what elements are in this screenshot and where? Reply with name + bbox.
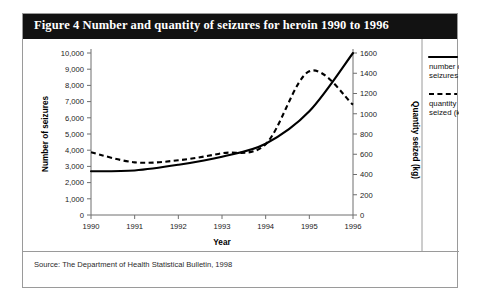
y-axis-left-title: Number of seizures	[41, 96, 50, 172]
y-axis-left-tick-label: 2,000	[65, 178, 84, 187]
y-axis-right-tick-label: 800	[360, 130, 373, 139]
series-quantity-seized	[91, 70, 353, 162]
y-axis-right-tick-label: 1400	[360, 69, 377, 78]
x-axis-tick-label: 1996	[345, 222, 362, 231]
y-axis-right-tick-label: 1000	[360, 110, 377, 119]
figure-title-bar: Figure 4 Number and quantity of seizures…	[23, 14, 457, 39]
y-axis-left-tick-label: 8,000	[65, 81, 84, 90]
y-axis-left: 01,0002,0003,0004,0005,0006,0007,0008,00…	[61, 49, 91, 220]
chart-region: 01,0002,0003,0004,0005,0006,0007,0008,00…	[23, 39, 459, 251]
y-axis-left-tick-label: 1,000	[65, 195, 84, 204]
x-axis-tick-label: 1991	[126, 222, 143, 231]
y-axis-left-tick-label: 9,000	[65, 65, 84, 74]
y-axis-right-tick-label: 200	[360, 191, 373, 200]
chart-legend: number of seizures quantity seized (kg)	[422, 39, 459, 251]
y-axis-right: 02004006008001000120014001600	[353, 49, 377, 220]
y-axis-left-tick-label: 5,000	[65, 130, 84, 139]
y-axis-right-title: Quantity seized (kg)	[411, 101, 420, 179]
legend-label-seizures-line1: number of	[429, 62, 459, 71]
figure-card: Figure 4 Number and quantity of seizures…	[22, 13, 458, 288]
y-axis-right-tick-label: 400	[360, 170, 373, 179]
line-chart: 01,0002,0003,0004,0005,0006,0007,0008,00…	[23, 39, 459, 251]
y-axis-right-tick-label: 600	[360, 150, 373, 159]
legend-label-quantity-line2: seized (kg)	[429, 108, 459, 117]
x-axis: 1990199119921993199419951996	[83, 215, 362, 231]
x-axis-tick-label: 1995	[301, 222, 318, 231]
y-axis-right-tick-label: 0	[360, 211, 364, 220]
y-axis-left-tick-label: 0	[80, 211, 84, 220]
legend-label-seizures-line2: seizures	[429, 71, 458, 80]
y-axis-left-tick-label: 6,000	[65, 114, 84, 123]
y-axis-right-tick-label: 1200	[360, 89, 377, 98]
x-axis-tick-label: 1990	[83, 222, 100, 231]
y-axis-left-tick-label: 3,000	[65, 162, 84, 171]
y-axis-left-tick-label: 10,000	[61, 49, 84, 58]
y-axis-left-tick-label: 7,000	[65, 97, 84, 106]
source-note: Source: The Department of Health Statist…	[34, 260, 232, 269]
legend-label-quantity-line1: quantity	[429, 99, 456, 108]
y-axis-right-tick-label: 1600	[360, 49, 377, 58]
x-axis-tick-label: 1994	[257, 222, 274, 231]
y-axis-left-tick-label: 4,000	[65, 146, 84, 155]
figure-title: Figure 4 Number and quantity of seizures…	[34, 18, 389, 33]
x-axis-title: Year	[213, 238, 231, 247]
x-axis-tick-label: 1992	[170, 222, 187, 231]
source-divider	[23, 251, 459, 252]
x-axis-tick-label: 1993	[214, 222, 231, 231]
